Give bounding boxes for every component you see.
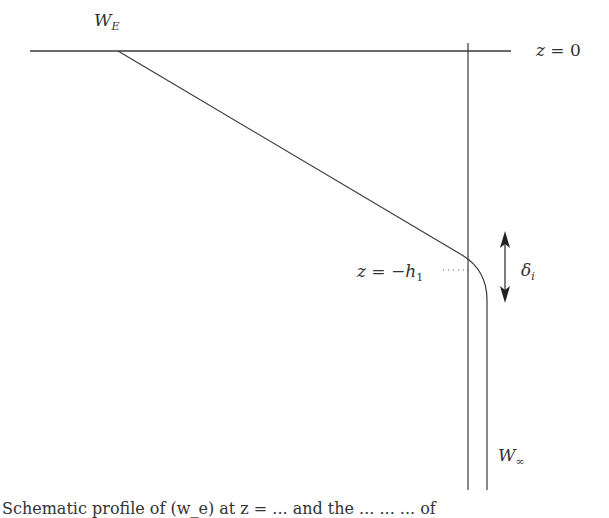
- label-z-equals-minus-h1: z = −h1: [357, 263, 423, 280]
- z0-eq: =: [545, 40, 570, 60]
- zh1-sub: 1: [416, 271, 423, 284]
- w-inf-main: W: [498, 445, 515, 465]
- delta-sub: i: [531, 270, 535, 283]
- figure-caption: Schematic profile of (w_e) at z = ... an…: [2, 501, 436, 517]
- profile-curve: [118, 51, 487, 490]
- w-inf-sub: ∞: [515, 455, 524, 468]
- delta-main: δ: [521, 260, 531, 280]
- w-e-sub: E: [111, 20, 119, 33]
- zh1-eq: = −: [366, 261, 405, 281]
- label-w-e: WE: [94, 12, 120, 29]
- w-e-main: W: [94, 10, 111, 30]
- zh1-var: h: [405, 261, 416, 281]
- label-z-equals-0: z = 0: [536, 42, 581, 59]
- zh1-lhs: z: [357, 261, 366, 281]
- label-w-infinity: W∞: [498, 447, 525, 464]
- z0-lhs: z: [536, 40, 545, 60]
- z0-rhs: 0: [570, 40, 581, 60]
- label-delta-i: δi: [521, 262, 535, 279]
